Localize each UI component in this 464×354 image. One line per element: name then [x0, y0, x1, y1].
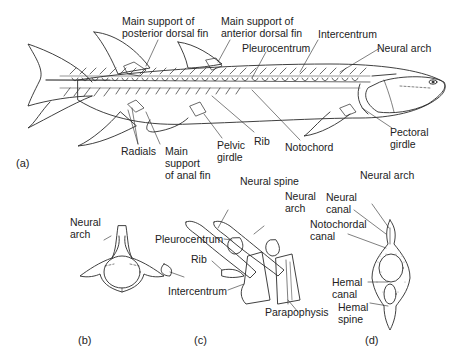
- label-neural-arch-c-2: arch: [285, 202, 305, 214]
- anterior-dorsal-fin: [178, 42, 222, 68]
- label-hemal-canal-2: canal: [332, 288, 357, 300]
- label-anterior-dorsal-fin-support-2: anterior dorsal fin: [221, 27, 302, 39]
- pelvic-fin: [147, 118, 188, 132]
- label-posterior-dorsal-fin-support-2: posterior dorsal fin: [122, 27, 208, 39]
- label-rib-c: Rib: [191, 253, 207, 265]
- label-anterior-dorsal-fin-support-1: Main support of: [221, 15, 293, 27]
- label-neural-canal-1: Neural: [326, 191, 357, 203]
- panel-label-a: (a): [16, 157, 29, 169]
- panel-label-d: (d): [365, 334, 378, 346]
- pectoral-fin: [304, 112, 350, 136]
- vertebra-caudal-view: [372, 220, 410, 330]
- label-neural-arch-d: Neural arch: [360, 169, 414, 181]
- label-neural-arch-b-1: Neural: [70, 216, 101, 228]
- label-notochordal-canal-1: Notochordal: [310, 218, 367, 230]
- label-neural-arch-b-2: arch: [70, 228, 90, 240]
- label-parapophysis: Parapophysis: [265, 306, 329, 318]
- caudal-fin: [28, 44, 92, 106]
- label-radials: Radials: [121, 145, 156, 157]
- label-pelvic-girdle-2: girdle: [217, 151, 243, 163]
- panel-label-b: (b): [78, 334, 91, 346]
- label-anal-fin-support-1: Main: [165, 145, 188, 157]
- label-notochord: Notochord: [285, 141, 333, 153]
- label-intercentrum-c: Intercentrum: [168, 285, 227, 297]
- label-pelvic-girdle-1: Pelvic: [217, 139, 245, 151]
- vertebra-front-view: [80, 226, 164, 292]
- label-hemal-spine-2: spine: [338, 313, 363, 325]
- label-neural-spine: Neural spine: [240, 175, 299, 187]
- label-neural-arch-c-1: Neural: [285, 190, 316, 202]
- panel-label-c: (c): [194, 334, 207, 346]
- label-pectoral-girdle-2: girdle: [390, 138, 416, 150]
- label-neural-canal-2: canal: [326, 203, 351, 215]
- label-pleurocentrum-c: Pleurocentrum: [155, 233, 223, 245]
- label-neural-arch-a: Neural arch: [377, 42, 431, 54]
- label-rib-a: Rib: [254, 135, 270, 147]
- anal-fin: [78, 112, 136, 146]
- label-pectoral-girdle-1: Pectoral: [390, 126, 429, 138]
- label-pleurocentrum-a: Pleurocentrum: [242, 42, 310, 54]
- label-hemal-canal-1: Hemal: [332, 276, 362, 288]
- label-anal-fin-support-3: of anal fin: [165, 169, 211, 181]
- label-hemal-spine-1: Hemal: [338, 301, 368, 313]
- label-anal-fin-support-2: support: [165, 157, 200, 169]
- label-intercentrum-a: Intercentrum: [318, 28, 377, 40]
- vertebral-column: [46, 68, 370, 96]
- label-notochordal-canal-2: canal: [310, 230, 335, 242]
- label-posterior-dorsal-fin-support-1: Main support of: [122, 15, 194, 27]
